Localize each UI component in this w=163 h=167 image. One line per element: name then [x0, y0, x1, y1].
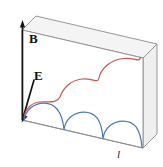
e-field-label: E — [34, 68, 43, 83]
b-field-label: B — [29, 31, 38, 46]
figure-canvas: B E l — [0, 0, 163, 167]
length-label: l — [117, 148, 120, 160]
slab-right-face — [143, 44, 157, 148]
physics-figure: B E l — [0, 0, 163, 167]
